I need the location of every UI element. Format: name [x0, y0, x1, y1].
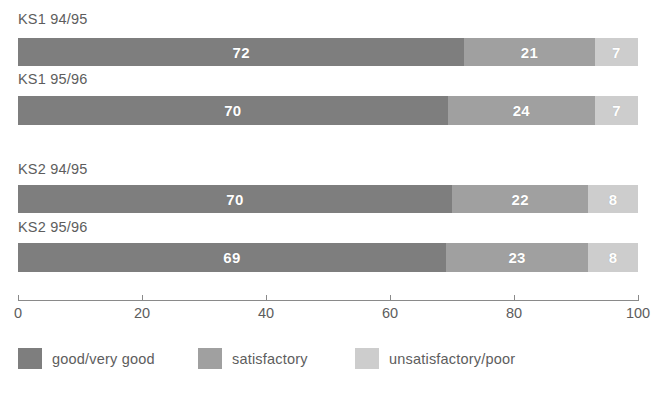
chart-legend: good/very goodsatisfactoryunsatisfactory…: [0, 348, 653, 376]
stacked-bar: 70247: [18, 96, 638, 125]
bar-segment: 69: [18, 243, 446, 272]
bar-segment-value: 8: [609, 192, 618, 207]
bar-row-label: KS1 95/96: [18, 71, 88, 87]
bar-segment-value: 24: [513, 103, 530, 118]
axis-tick-mark: [18, 295, 19, 301]
axis-tick-label: 40: [258, 305, 274, 321]
bar-segment: 21: [464, 38, 594, 66]
axis-tick-mark: [390, 295, 391, 301]
axis-tick-label: 0: [14, 305, 22, 321]
legend-item[interactable]: good/very good: [18, 348, 155, 369]
bar-segment-value: 8: [609, 250, 618, 265]
bar-row-label: KS2 95/96: [18, 219, 88, 235]
bar-segment-value: 72: [233, 45, 250, 60]
legend-label: satisfactory: [232, 351, 308, 367]
bar-segment-value: 22: [512, 192, 529, 207]
bar-segment: 23: [446, 243, 589, 272]
bar-segment: 8: [588, 243, 638, 272]
bar-segment-value: 69: [223, 250, 240, 265]
legend-item[interactable]: satisfactory: [198, 348, 308, 369]
bar-segment: 72: [18, 38, 464, 66]
bar-segment: 24: [448, 96, 595, 125]
bar-row-label: KS1 94/95: [18, 11, 88, 27]
legend-item[interactable]: unsatisfactory/poor: [355, 348, 515, 369]
axis-tick-mark: [142, 295, 143, 301]
axis-tick-label: 60: [382, 305, 398, 321]
legend-swatch-icon: [198, 348, 222, 369]
stacked-bar: 69238: [18, 243, 638, 272]
x-axis-line: [18, 300, 638, 301]
stacked-bar-chart: KS1 94/9572217KS1 95/9670247KS2 94/95702…: [0, 0, 653, 393]
bar-segment-value: 23: [508, 250, 525, 265]
bar-segment: 7: [595, 38, 638, 66]
axis-tick-label: 100: [626, 305, 650, 321]
bar-segment: 8: [588, 185, 638, 213]
stacked-bar: 70228: [18, 185, 638, 213]
bar-segment-value: 7: [612, 103, 621, 118]
axis-tick-mark: [266, 295, 267, 301]
bar-segment: 22: [452, 185, 588, 213]
legend-label: good/very good: [52, 351, 155, 367]
bar-segment-value: 70: [224, 103, 241, 118]
bar-segment: 70: [18, 185, 452, 213]
axis-tick-label: 80: [506, 305, 522, 321]
legend-label: unsatisfactory/poor: [389, 351, 515, 367]
bar-segment-value: 70: [226, 192, 243, 207]
bar-segment-value: 21: [521, 45, 538, 60]
axis-tick-mark: [638, 295, 639, 301]
bar-row-label: KS2 94/95: [18, 161, 88, 177]
bar-segment-value: 7: [612, 45, 621, 60]
legend-swatch-icon: [355, 348, 379, 369]
bar-segment: 70: [18, 96, 448, 125]
stacked-bar: 72217: [18, 38, 638, 66]
legend-swatch-icon: [18, 348, 42, 369]
axis-tick-label: 20: [134, 305, 150, 321]
bar-segment: 7: [595, 96, 638, 125]
axis-tick-mark: [514, 295, 515, 301]
